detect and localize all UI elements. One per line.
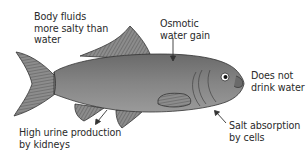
arrow-osmotic	[171, 38, 176, 61]
anal-fin	[116, 110, 144, 128]
label-salt-absorption: Salt absorption by cells	[229, 120, 300, 143]
tail-fin	[14, 52, 55, 116]
arrow-salt	[215, 111, 227, 124]
fish-body	[54, 54, 244, 112]
pectoral-fin	[158, 93, 191, 107]
label-osmotic-water-gain: Osmotic water gain	[160, 18, 210, 41]
label-high-urine: High urine production by kidneys	[19, 127, 121, 150]
label-does-not-drink: Does not drink water	[251, 70, 305, 93]
fish-osmoregulation-diagram: Body fluids more salty than water Osmoti…	[0, 0, 307, 159]
label-body-fluids: Body fluids more salty than water	[34, 11, 108, 46]
